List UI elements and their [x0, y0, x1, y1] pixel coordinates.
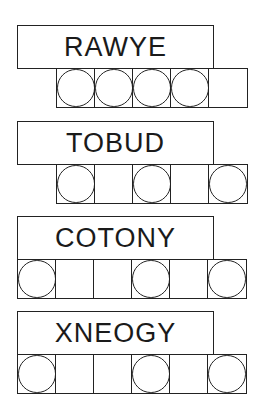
circle-icon: [208, 355, 246, 393]
answer-cell-circled[interactable]: [131, 259, 171, 299]
circle-icon: [18, 355, 56, 393]
answer-cell-circled[interactable]: [17, 259, 57, 299]
answer-cell-circled[interactable]: [131, 354, 171, 394]
answer-cell[interactable]: [94, 164, 134, 204]
circle-icon: [133, 165, 171, 203]
scrambled-word-box: TOBUD: [17, 121, 214, 165]
circle-icon: [95, 69, 133, 107]
answer-cell[interactable]: [93, 354, 133, 394]
answer-cells: [56, 164, 248, 204]
scrambled-word: RAWYE: [64, 34, 167, 61]
answer-cell[interactable]: [169, 259, 209, 299]
answer-cell[interactable]: [169, 354, 209, 394]
circle-icon: [133, 69, 171, 107]
circle-icon: [18, 260, 56, 298]
circle-icon: [132, 260, 170, 298]
scrambled-word: XNEOGY: [55, 320, 177, 347]
answer-cell-circled[interactable]: [207, 259, 247, 299]
answer-cell-circled[interactable]: [56, 68, 96, 108]
answer-cells: [56, 68, 248, 108]
scrambled-word-box: XNEOGY: [17, 311, 214, 355]
circle-icon: [208, 260, 246, 298]
answer-cell-circled[interactable]: [208, 164, 248, 204]
answer-cell[interactable]: [208, 68, 248, 108]
scrambled-word: COTONY: [55, 225, 176, 252]
circle-icon: [57, 69, 95, 107]
answer-cells: [17, 259, 247, 299]
scrambled-word: TOBUD: [66, 130, 165, 157]
answer-cell-circled[interactable]: [207, 354, 247, 394]
answer-cell-circled[interactable]: [56, 164, 96, 204]
circle-icon: [57, 165, 95, 203]
circle-icon: [171, 69, 209, 107]
scrambled-word-box: RAWYE: [17, 25, 214, 69]
answer-cell[interactable]: [55, 259, 95, 299]
answer-cell-circled[interactable]: [94, 68, 134, 108]
circle-icon: [209, 165, 247, 203]
answer-cell-circled[interactable]: [132, 68, 172, 108]
answer-cell[interactable]: [170, 164, 210, 204]
answer-cell-circled[interactable]: [17, 354, 57, 394]
scrambled-word-box: COTONY: [17, 216, 214, 260]
answer-cell[interactable]: [55, 354, 95, 394]
circle-icon: [132, 355, 170, 393]
answer-cell-circled[interactable]: [132, 164, 172, 204]
answer-cells: [17, 354, 247, 394]
answer-cell-circled[interactable]: [170, 68, 210, 108]
answer-cell[interactable]: [93, 259, 133, 299]
